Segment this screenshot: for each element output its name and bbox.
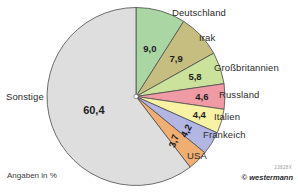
pie-chart-figure: 9,07,95,84,64,44,23,760,4 Deutschland Ir… [0,0,298,193]
pie-slice-value: 5,8 [188,71,201,82]
pie-label-deutschland: Deutschland [172,7,226,18]
pie-label-grossbritannien: Großbritannien [214,62,279,73]
pie-slice-value: 4,4 [193,109,207,120]
pie-slice-value: 7,9 [170,53,183,64]
pie-label-sonstige: Sonstige [6,91,44,102]
pie-slice-value: 9,0 [143,43,156,54]
credit-code: 23828X [274,165,292,170]
pie-label-frankeich: Frankeich [203,129,246,140]
pie-slice-value: 4,6 [195,91,208,102]
pie-label-usa: USA [187,150,207,161]
pie-slice-value: 60,4 [83,104,105,116]
pie-label-russland: Russland [219,89,259,100]
publisher-credit: © westermann [242,173,293,182]
pie-label-italien: Italien [214,111,240,122]
units-footnote: Angaben in % [7,171,57,180]
pie-center-dot [134,94,138,98]
pie-label-irak: Irak [199,32,215,43]
